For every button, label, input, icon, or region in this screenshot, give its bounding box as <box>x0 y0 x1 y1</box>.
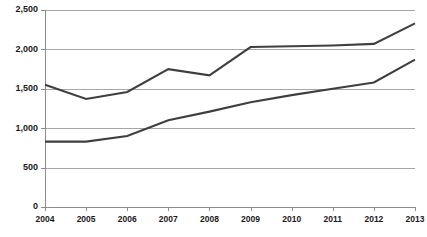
x-tick-label: 2013 <box>406 214 425 224</box>
x-tick-label: 2008 <box>200 214 219 224</box>
y-tick-label: 500 <box>23 162 38 172</box>
x-tick-label: 2012 <box>364 214 383 224</box>
x-tick-label: 2006 <box>118 214 137 224</box>
y-tick-label: 2,500 <box>15 4 38 14</box>
x-tick-label: 2010 <box>282 214 301 224</box>
chart-canvas: 05001,0001,5002,0002,500 200420052006200… <box>0 0 427 237</box>
x-tick-label: 2005 <box>77 214 96 224</box>
x-tick-label: 2009 <box>241 214 260 224</box>
chart-background <box>0 0 427 237</box>
x-tick-label: 2004 <box>36 214 55 224</box>
y-tick-label: 0 <box>33 201 38 211</box>
line-chart: 05001,0001,5002,0002,500 200420052006200… <box>0 0 427 237</box>
y-tick-label: 1,000 <box>15 123 38 133</box>
x-tick-label: 2007 <box>159 214 178 224</box>
x-tick-label: 2011 <box>324 214 343 224</box>
y-tick-label: 1,500 <box>15 83 38 93</box>
y-tick-label: 2,000 <box>15 44 38 54</box>
